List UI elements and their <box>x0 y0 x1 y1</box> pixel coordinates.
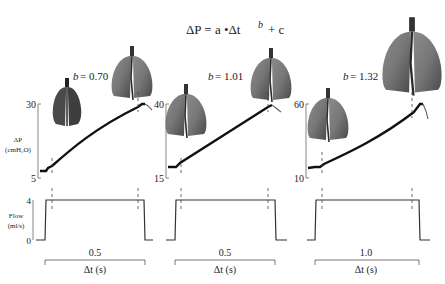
lung-image-small <box>166 84 207 138</box>
b-label: b <box>73 70 79 82</box>
pressure-tick-top: 60 <box>294 99 304 110</box>
pressure-tick-top: 30 <box>26 99 36 110</box>
equation-exponent: b <box>258 19 263 30</box>
b-value: = 1.01 <box>215 70 243 82</box>
pressure-tick-bottom: 5 <box>31 173 36 184</box>
duration-value: 0.5 <box>219 247 232 258</box>
flow-axis-label: Flow <box>9 212 24 220</box>
flow-axis-unit: (ml/s) <box>8 222 25 230</box>
pressure-tick-bottom: 10 <box>294 173 304 184</box>
lung-image-large <box>112 46 153 100</box>
panel-1: b = 0.70 30 5 ΔP (cmH₂O) 4 0 Flow (ml/s)… <box>5 46 153 276</box>
pressure-tick-top: 40 <box>154 99 164 110</box>
b-label: b <box>208 70 214 82</box>
figure: ΔP = a •Δt b + c b = 0.70 30 5 ΔP (cmH₂O… <box>0 0 445 284</box>
equation-rhs: + c <box>268 22 285 37</box>
pressure-axis-label: ΔP <box>14 136 23 144</box>
lung-image-large <box>251 48 292 102</box>
flow-tick-bottom: 0 <box>27 236 32 246</box>
b-value: = 1.32 <box>350 70 378 82</box>
flow-pulse <box>36 200 153 240</box>
dt-label: Δt (s) <box>84 264 106 276</box>
panel-3: b = 1.32 60 10 1.0 Δt (s) <box>294 17 442 276</box>
flow-pulse <box>166 200 287 240</box>
dt-label: Δt (s) <box>355 264 377 276</box>
lung-image-small <box>308 88 349 142</box>
panel-2: b = 1.01 40 15 0.5 Δt (s) <box>154 48 291 276</box>
equation-title: ΔP = a •Δt b + c <box>186 19 285 37</box>
flow-tick-top: 4 <box>27 196 32 206</box>
duration-value: 0.5 <box>89 247 102 258</box>
pressure-axis-unit: (cmH₂O) <box>5 146 31 154</box>
pressure-tick-bottom: 15 <box>154 173 164 184</box>
flow-pulse <box>307 200 430 240</box>
lung-image-large <box>382 17 441 95</box>
dt-label: Δt (s) <box>214 264 236 276</box>
duration-value: 1.0 <box>360 247 373 258</box>
b-label: b <box>343 70 349 82</box>
b-value: = 0.70 <box>80 70 109 82</box>
equation-lhs: ΔP = a •Δt <box>186 22 241 37</box>
lung-image-small <box>53 78 82 126</box>
